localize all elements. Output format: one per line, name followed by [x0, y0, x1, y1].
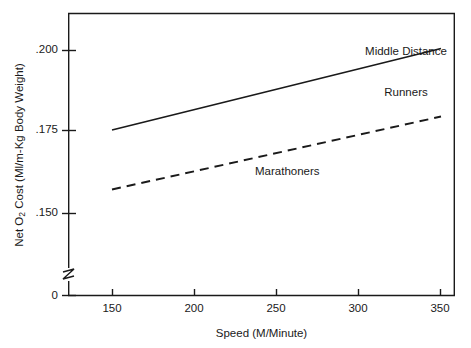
chart-figure: Net O2 Cost (Ml/m-Kg Body Weight) .200 .…	[0, 0, 471, 348]
plot-canvas	[0, 0, 471, 348]
y-axis-break-icon	[63, 269, 74, 279]
series-line-middle-distance-runners	[112, 49, 441, 131]
series-line-marathoners	[112, 117, 441, 190]
